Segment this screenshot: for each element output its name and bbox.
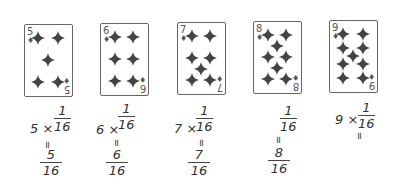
diamond-icon xyxy=(108,30,122,44)
diamond-icon xyxy=(108,52,122,66)
fraction-denominator: 16 xyxy=(118,117,135,132)
playing-card-5-of-diamonds: 5♦5♦ xyxy=(24,24,73,97)
fraction-denominator: 16 xyxy=(54,119,71,134)
unit-fraction: 116 xyxy=(280,103,297,134)
fraction-denominator: 16 xyxy=(268,161,290,176)
unit-fraction: 116 xyxy=(358,100,375,131)
fraction-numerator: 8 xyxy=(268,145,290,160)
diamond-icon xyxy=(203,29,217,43)
playing-card-7-of-diamonds: 7♦7♦ xyxy=(177,22,226,95)
diamond-icon xyxy=(185,73,199,87)
fraction-denominator: 16 xyxy=(196,119,213,134)
diamond-icon xyxy=(185,29,199,43)
fraction-numerator: 1 xyxy=(358,100,375,115)
result-fraction: 816 xyxy=(268,145,290,176)
equals-sign: = xyxy=(354,132,365,139)
fraction-numerator: 7 xyxy=(188,147,210,162)
diamond-icon xyxy=(126,52,140,66)
diamond-icon xyxy=(126,30,140,44)
unit-fraction: 116 xyxy=(196,103,213,134)
fraction-numerator: 1 xyxy=(196,103,213,118)
fraction-denominator: 16 xyxy=(40,163,62,178)
playing-card-9-of-diamonds: 9♦9♦ xyxy=(329,20,378,93)
diamond-icon xyxy=(356,57,370,71)
result-fraction: 716 xyxy=(188,147,210,178)
diamond-icon xyxy=(336,71,350,85)
unit-fraction: 116 xyxy=(54,103,71,134)
result-fraction: 516 xyxy=(40,147,62,178)
diamond-icon xyxy=(336,27,350,41)
diamond-icon xyxy=(41,53,55,67)
unit-fraction: 116 xyxy=(118,101,135,132)
diamond-icon xyxy=(31,31,45,45)
diamond-icon xyxy=(203,73,217,87)
diamond-icon xyxy=(356,71,370,85)
fraction-denominator: 16 xyxy=(280,119,297,134)
playing-card-8-of-diamonds: 8♦8♦ xyxy=(253,21,302,94)
multiplier-label: 7 × xyxy=(174,121,197,136)
fraction-numerator: 5 xyxy=(40,147,62,162)
multiplier-label: 5 × xyxy=(30,121,53,136)
fraction-denominator: 16 xyxy=(358,116,375,131)
multiplier-label: 9 × xyxy=(335,112,358,127)
fraction-numerator: 1 xyxy=(280,103,297,118)
playing-card-6-of-diamonds: 6♦6♦ xyxy=(100,23,149,96)
diamond-icon xyxy=(51,31,65,45)
diamond-icon xyxy=(108,74,122,88)
fraction-numerator: 1 xyxy=(118,101,135,116)
diamond-icon xyxy=(356,27,370,41)
fraction-denominator: 16 xyxy=(106,163,128,178)
fraction-numerator: 6 xyxy=(106,147,128,162)
diamond-icon xyxy=(31,75,45,89)
diamond-icon xyxy=(336,57,350,71)
equals-sign: = xyxy=(196,139,207,146)
result-fraction: 616 xyxy=(106,147,128,178)
diamond-icon xyxy=(126,74,140,88)
diamond-icon xyxy=(279,72,293,86)
diamond-icon xyxy=(51,75,65,89)
fraction-numerator: 1 xyxy=(54,103,71,118)
equals-sign: = xyxy=(273,136,284,143)
multiplier-label: 6 × xyxy=(96,122,119,137)
equals-sign: = xyxy=(111,139,122,146)
fraction-denominator: 16 xyxy=(188,163,210,178)
diamond-icon xyxy=(261,72,275,86)
